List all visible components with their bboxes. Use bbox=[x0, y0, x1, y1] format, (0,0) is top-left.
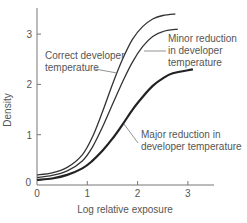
y-tick-label: 0 bbox=[25, 177, 31, 188]
leader-line bbox=[124, 124, 138, 143]
y-ticks: 0123 bbox=[25, 29, 41, 188]
x-tick-label: 0 bbox=[34, 188, 40, 199]
y-axis-title: Density bbox=[2, 93, 13, 126]
characteristic-curve-chart: 0123 0123 Log relative exposure Density … bbox=[0, 0, 247, 223]
annotation-label: Correct developer temperature bbox=[45, 50, 127, 73]
x-axis-title: Log relative exposure bbox=[77, 204, 173, 215]
annotation-correct-temperature: Correct developer temperature bbox=[45, 50, 127, 73]
curve-major-reduction bbox=[37, 69, 193, 180]
x-ticks: 0123 bbox=[34, 181, 191, 199]
y-tick-label: 1 bbox=[26, 130, 32, 141]
annotation-major-reduction: Major reduction in developer temperature bbox=[124, 124, 242, 152]
annotation-label: Minor reduction in developer temperature bbox=[168, 33, 240, 68]
y-tick-label: 3 bbox=[26, 29, 32, 40]
annotation-minor-reduction: Minor reduction in developer temperature bbox=[144, 33, 240, 68]
y-tick-label: 2 bbox=[26, 79, 32, 90]
x-tick-label: 3 bbox=[185, 188, 191, 199]
x-tick-label: 2 bbox=[135, 188, 141, 199]
annotation-label: Major reduction in developer temperature bbox=[141, 129, 242, 152]
x-tick-label: 1 bbox=[85, 188, 91, 199]
